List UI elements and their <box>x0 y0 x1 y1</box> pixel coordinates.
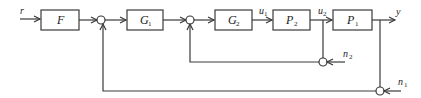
block-G2-sub: 2 <box>236 20 240 28</box>
block-P2-label: P <box>285 13 294 27</box>
block-F-label: F <box>56 13 65 27</box>
signal-n1-label: n <box>398 76 403 87</box>
summing-junction-1 <box>97 16 105 24</box>
block-G1-sub: 1 <box>148 20 152 28</box>
block-diagram: r F G 1 G 2 u 1 P 2 u 2 P 1 y n <box>0 0 421 98</box>
signal-r-label: r <box>20 5 24 16</box>
signal-n1-sub: 1 <box>404 81 408 89</box>
signal-y-label: y <box>395 6 401 17</box>
signal-u2-sub: 2 <box>323 10 327 18</box>
block-P2-sub: 2 <box>294 20 298 28</box>
block-P1-sub: 1 <box>355 20 359 28</box>
signal-n2-label: n <box>343 48 348 59</box>
signal-n2-sub: 2 <box>349 53 353 61</box>
outer-feedback-line <box>103 24 376 91</box>
signal-u1-sub: 1 <box>264 10 268 18</box>
block-P1-label: P <box>346 13 355 27</box>
